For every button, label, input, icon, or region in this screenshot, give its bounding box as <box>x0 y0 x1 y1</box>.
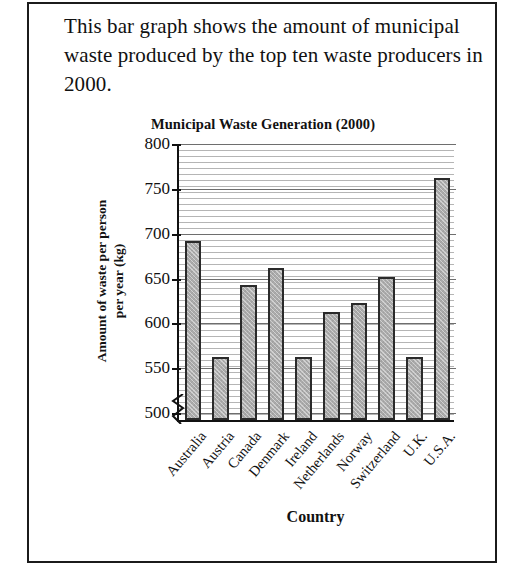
y-axis-tick <box>172 189 181 191</box>
gridline <box>179 189 456 190</box>
y-axis-title-line1: Amount of waste per person <box>93 150 110 412</box>
y-axis-tick-label: 750 <box>145 178 171 198</box>
plot-area: 500550600650700750800 <box>177 144 454 422</box>
y-axis-tick <box>172 144 181 146</box>
bar <box>295 357 312 420</box>
bar <box>406 357 423 420</box>
gridline <box>179 144 456 145</box>
page-root: This bar graph shows the amount of munic… <box>0 0 522 587</box>
gridline <box>179 323 456 324</box>
bar <box>268 268 285 420</box>
bar <box>434 178 451 420</box>
y-axis-title: Amount of waste per person per year (kg) <box>93 150 129 412</box>
content-frame: This bar graph shows the amount of munic… <box>27 2 497 563</box>
y-axis-tick <box>172 234 181 236</box>
bar <box>378 277 395 420</box>
gridline <box>179 279 456 280</box>
axis-break-icon <box>167 394 189 424</box>
bar <box>240 285 257 420</box>
x-axis-title: Country <box>177 508 454 526</box>
y-axis-tick <box>172 279 181 281</box>
y-axis-title-line2: per year (kg) <box>110 150 127 412</box>
bar <box>323 312 340 420</box>
y-axis-tick <box>172 323 181 325</box>
chart-title: Municipal Waste Generation (2000) <box>59 116 467 133</box>
y-axis-tick-label: 800 <box>145 134 171 154</box>
y-axis-tick <box>172 368 181 370</box>
bar-chart: Municipal Waste Generation (2000) Amount… <box>59 116 467 536</box>
gridline <box>179 234 456 235</box>
bar <box>351 303 368 420</box>
bar <box>212 357 229 420</box>
y-axis-tick-label: 650 <box>145 268 171 288</box>
y-axis-tick-label: 700 <box>145 223 171 243</box>
intro-paragraph: This bar graph shows the amount of munic… <box>64 12 484 99</box>
y-axis-tick-label: 600 <box>145 313 171 333</box>
y-axis-tick-label: 550 <box>145 358 171 378</box>
